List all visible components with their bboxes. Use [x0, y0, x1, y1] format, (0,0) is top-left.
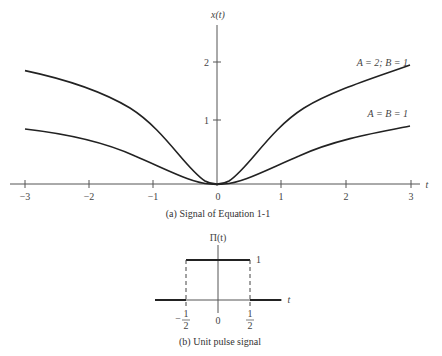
caption-a: (a) Signal of Equation 1-1 — [166, 208, 270, 220]
x-tick-label: −2 — [84, 191, 95, 202]
x-tick-label: 2 — [344, 191, 349, 202]
x-tick-label: −1 — [148, 191, 159, 202]
y-tick-label: 2 — [204, 57, 209, 68]
x-tick-label: −3 — [20, 191, 31, 202]
tick-sign: − — [175, 313, 181, 324]
tick-num-right: 1 — [248, 308, 253, 319]
x-tick-label: 1 — [279, 191, 284, 202]
x-tick-label: 3 — [409, 191, 414, 202]
tick-zero: 0 — [216, 315, 221, 326]
caption-b: (b) Unit pulse signal — [179, 336, 261, 348]
y-axis-label-b: Π(t) — [210, 232, 227, 244]
y-axis-label: x(t) — [210, 9, 226, 21]
tick-num-left: 1 — [184, 308, 189, 319]
level-label: 1 — [256, 254, 261, 265]
x-tick-label: 0 — [216, 191, 221, 202]
chart-a: −3 −2 −1 0 1 2 3 1 2 x(t) t A = 2; B = 1… — [10, 9, 429, 220]
figure: −3 −2 −1 0 1 2 3 1 2 x(t) t A = 2; B = 1… — [0, 0, 442, 356]
series-label-a1-b1: A = B = 1 — [366, 108, 408, 119]
tick-den-left: 2 — [184, 320, 189, 331]
tick-den-right: 2 — [248, 320, 253, 331]
x-axis-label-b: t — [288, 294, 291, 305]
chart-b: Π(t) t 1 − 1 2 0 1 2 (b) Unit pulse sign… — [155, 232, 291, 348]
x-axis-label: t — [426, 179, 429, 190]
y-tick-label: 1 — [204, 115, 209, 126]
series-label-a2-b1: A = 2; B = 1 — [356, 57, 408, 68]
